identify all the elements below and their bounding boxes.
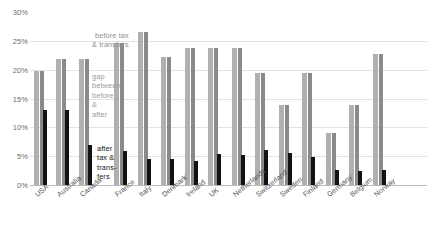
- annotation-gap-line4: &: [92, 100, 121, 109]
- bar-before-light-denmark: [161, 57, 166, 185]
- y-tick-5: 5%: [17, 152, 28, 161]
- bar-before-light-italy: [138, 32, 143, 185]
- y-tick-20: 20%: [13, 65, 28, 74]
- bar-before-light-canada: [79, 59, 84, 185]
- x-label-italy: Italy: [137, 183, 153, 199]
- bar-before-light-finland: [302, 73, 307, 185]
- bar-after-uk: [217, 154, 222, 185]
- chart-root: 30% 25% 20% 15% 10% 5% 0% USAAustraliaCa…: [0, 0, 429, 240]
- annotation-after-tax: after tax & trans- fers: [97, 144, 117, 182]
- bar-after-usa: [43, 110, 48, 185]
- annotation-gap-line2: between: [92, 81, 121, 90]
- annotation-gap-line1: gap: [92, 72, 121, 81]
- y-tick-25: 25%: [13, 36, 28, 45]
- y-tick-30: 30%: [13, 8, 28, 17]
- annotation-after-line3: trans-: [97, 163, 117, 172]
- annotation-gap-line3: before: [92, 91, 121, 100]
- bar-before-light-belgium: [349, 105, 354, 185]
- bar-after-italy: [147, 159, 152, 185]
- bar-before-light-norway: [373, 54, 378, 185]
- plot-area: USAAustraliaCanadaFranceItalyDenmarkIrel…: [30, 0, 427, 240]
- annotation-after-line1: after: [97, 144, 117, 153]
- bar-before-light-australia: [56, 59, 61, 185]
- bar-after-australia: [65, 110, 70, 185]
- bar-before-light-germany: [326, 133, 331, 185]
- annotation-before-line1: before tax: [92, 31, 129, 40]
- annotation-after-line4: fers: [97, 172, 117, 181]
- y-tick-10: 10%: [13, 123, 28, 132]
- y-tick-0: 0%: [17, 181, 28, 190]
- annotation-after-line2: tax &: [97, 153, 117, 162]
- annotation-gap-line5: after: [92, 110, 121, 119]
- x-label-uk: UK: [207, 185, 221, 198]
- annotation-before-line2: & transfers: [92, 40, 129, 49]
- y-axis: 30% 25% 20% 15% 10% 5% 0%: [0, 0, 28, 240]
- bar-before-norway: [379, 54, 384, 185]
- annotation-before-tax: before tax & transfers: [92, 31, 129, 50]
- bar-before-light-ireland: [185, 48, 190, 185]
- bar-before-light-netherlands: [232, 48, 237, 185]
- bar-before-light-uk: [208, 48, 213, 185]
- y-tick-15: 15%: [13, 94, 28, 103]
- bar-before-light-usa: [34, 71, 39, 185]
- annotation-gap: gap between before & after: [92, 72, 121, 119]
